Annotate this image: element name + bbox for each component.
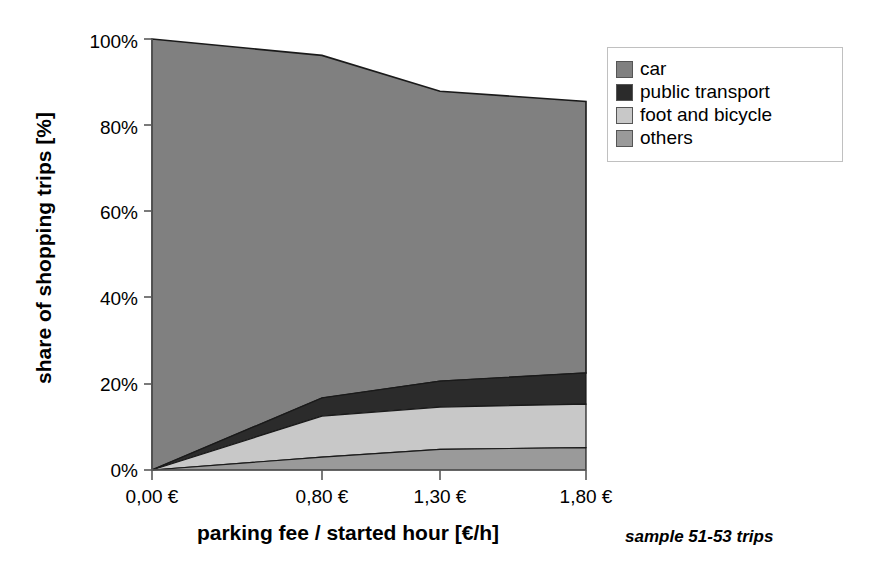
x-tick-label-130: 1,30 € xyxy=(390,487,490,506)
chart-legend: car public transport foot and bicycle ot… xyxy=(607,47,843,162)
legend-swatch-others-icon xyxy=(616,130,633,147)
legend-label-others: others xyxy=(640,128,693,148)
x-tick-label-0: 0,00 € xyxy=(102,487,202,506)
legend-swatch-car-icon xyxy=(616,61,633,78)
x-axis-title: parking fee / started hour [€/h] xyxy=(88,521,608,545)
legend-label-car: car xyxy=(640,59,666,79)
legend-label-public-transport: public transport xyxy=(640,82,770,102)
legend-item-others[interactable]: others xyxy=(616,128,834,148)
x-tick-label-080: 0,80 € xyxy=(272,487,372,506)
legend-item-foot-and-bicycle[interactable]: foot and bicycle xyxy=(616,105,834,125)
legend-item-public-transport[interactable]: public transport xyxy=(616,82,834,102)
chart-container: share of shopping trips [%] 100% 80% 60%… xyxy=(0,0,871,584)
legend-swatch-public-transport-icon xyxy=(616,84,633,101)
legend-label-foot-and-bicycle: foot and bicycle xyxy=(640,105,772,125)
sample-note: sample 51-53 trips xyxy=(625,527,773,547)
legend-swatch-foot-and-bicycle-icon xyxy=(616,107,633,124)
x-tick-label-180: 1,80 € xyxy=(536,487,636,506)
legend-item-car[interactable]: car xyxy=(616,59,834,79)
